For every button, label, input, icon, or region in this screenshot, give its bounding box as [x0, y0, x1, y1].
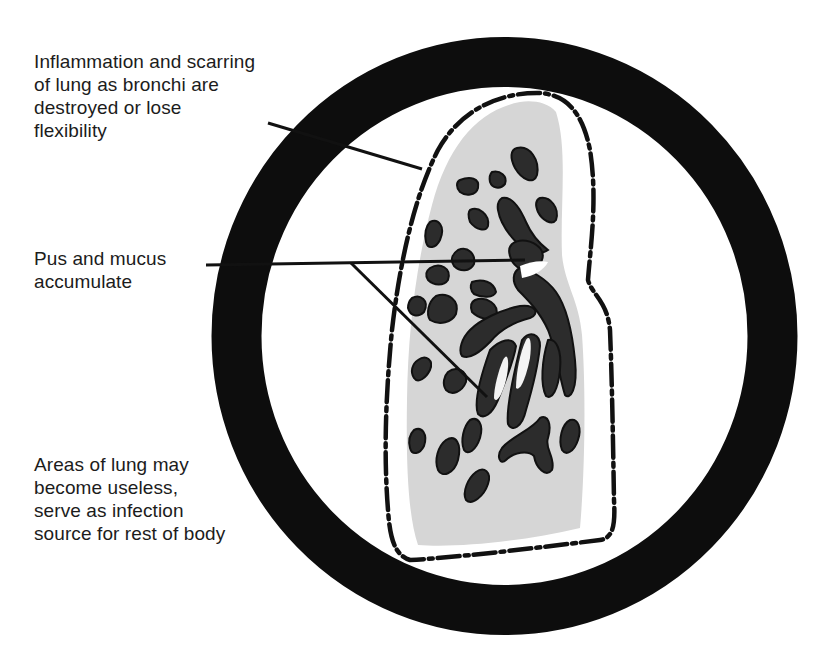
- label-line: become useless,: [34, 476, 225, 499]
- label-line: Inflammation and scarring: [34, 50, 255, 73]
- label-areas-useless: Areas of lung may become useless, serve …: [34, 453, 225, 545]
- label-pus-mucus: Pus and mucus accumulate: [34, 247, 166, 293]
- label-line: serve as infection: [34, 499, 225, 522]
- label-line: accumulate: [34, 270, 166, 293]
- label-line: source for rest of body: [34, 522, 225, 545]
- label-line: flexibility: [34, 119, 255, 142]
- label-line: Pus and mucus: [34, 247, 166, 270]
- label-line: Areas of lung may: [34, 453, 225, 476]
- diagram-stage: Inflammation and scarring of lung as bro…: [0, 0, 835, 649]
- label-line: of lung as bronchi are: [34, 73, 255, 96]
- label-inflammation-scarring: Inflammation and scarring of lung as bro…: [34, 50, 255, 142]
- label-line: destroyed or lose: [34, 96, 255, 119]
